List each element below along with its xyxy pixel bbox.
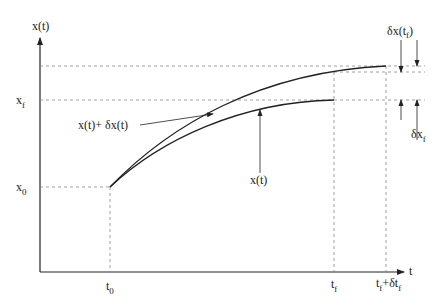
curve-x-plus-dx: [110, 66, 386, 187]
curve-x: [110, 100, 334, 187]
tick-tf: tf: [331, 277, 337, 294]
y-axis-label: x(t): [32, 19, 49, 33]
tick-tf-plus-dtf: tf+δtf: [376, 276, 401, 293]
x-axis-label: t: [409, 264, 413, 278]
curves: [110, 66, 386, 187]
label-perturbed-curve: x(t)+ δx(t): [78, 118, 128, 132]
label-dx-tf: δx(tf): [387, 24, 413, 40]
tick-x0: x0: [16, 180, 27, 197]
tick-xf: xf: [16, 93, 25, 110]
label-dxf: δxf: [411, 127, 426, 144]
axes: [40, 38, 404, 272]
tick-t0: t0: [106, 279, 114, 296]
guide-lines: [40, 66, 425, 272]
label-nominal-curve: x(t): [250, 173, 267, 187]
pointer-perturbed: [140, 114, 213, 125]
pointers: [140, 40, 417, 173]
diagram-canvas: x(t) t xf x0 t0 tf tf+δtf x(t)+ δx(t) x(…: [0, 0, 443, 304]
